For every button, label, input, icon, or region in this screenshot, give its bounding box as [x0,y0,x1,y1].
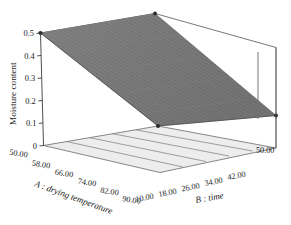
y-tick-label-3: 34.00 [204,176,224,188]
x-tick-label-3: 74.00 [77,177,97,189]
y-tick-label-1: 18.00 [158,187,178,199]
surface-corner-marker-high-temp-short-time [156,124,160,128]
x-tick-label-2: 66.00 [54,168,74,180]
z-tick-label-1: 0.4 [24,52,35,61]
surface-corner-marker-low-temp-long-time [153,12,157,16]
y-tick-label-5: 50.00 [256,146,274,155]
y-axis-title: B : time [195,190,225,205]
z-tick-label-2: 0.3 [25,74,35,83]
surface-plot-figure: 0.5 0.4 0.3 0.2 0.1 0 Moisture content 5… [0,0,291,225]
x-axis-title: A : drying temperature [32,178,114,216]
x-tick-label-0: 50.00 [9,148,29,160]
x-tick-label-4: 82.00 [100,186,120,198]
plot-canvas: 0.5 0.4 0.3 0.2 0.1 0 Moisture content 5… [0,0,291,225]
response-surface [30,8,286,134]
z-axis [37,33,44,146]
z-axis-line [41,33,44,146]
y-tick-label-2: 26.00 [181,181,201,193]
x-tick-label-1: 58.00 [31,159,51,171]
z-tick-label-4: 0.1 [26,119,36,128]
surface-mesh-texture [30,8,286,134]
floor-plane [44,126,277,173]
y-tick-label-0: 10.00 [135,192,155,204]
z-tick-label-3: 0.2 [25,97,35,106]
z-axis-title: Moisture content [8,62,18,125]
z-tick-label-0: 0.5 [24,29,34,38]
y-tick-label-4: 42.00 [227,170,247,182]
z-tick-label-5: 0 [33,142,37,151]
